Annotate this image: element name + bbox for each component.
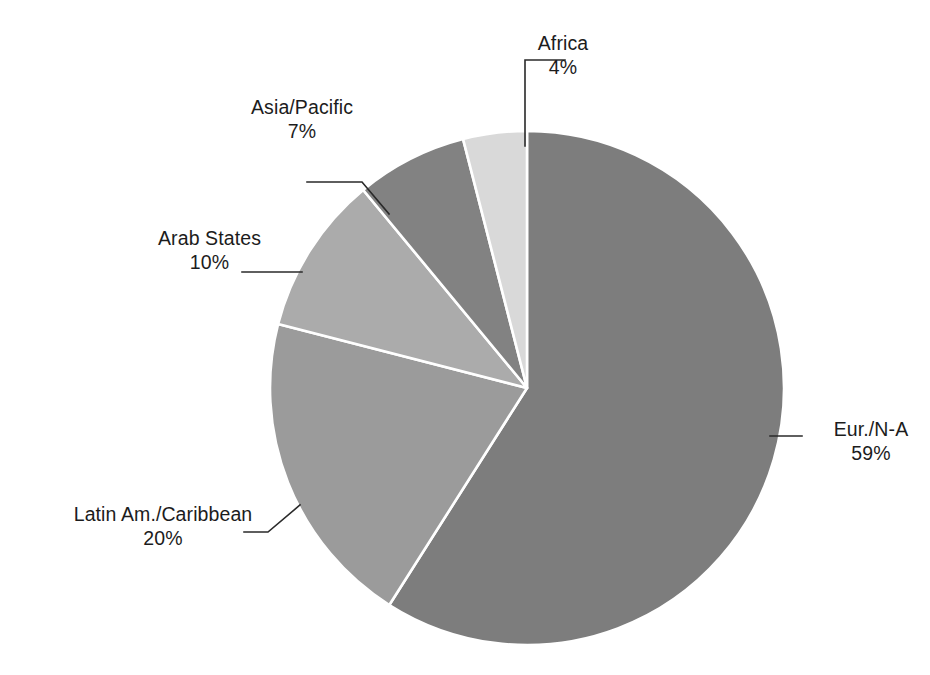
pie-label-asia-pacific-name: Asia/Pacific xyxy=(222,96,382,120)
pie-label-eur-na-percent: 59% xyxy=(806,442,930,466)
pie-label-latin-america-name: Latin Am./Caribbean xyxy=(44,503,282,527)
pie-label-arab-states-percent: 10% xyxy=(132,251,287,275)
pie-chart: Africa 4% Asia/Pacific 7% Arab States 10… xyxy=(0,0,930,675)
pie-chart-canvas xyxy=(0,0,930,675)
pie-label-arab-states-name: Arab States xyxy=(132,227,287,251)
pie-label-arab-states: Arab States 10% xyxy=(132,227,287,275)
pie-label-eur-na: Eur./N-A 59% xyxy=(806,418,930,466)
pie-label-africa-percent: 4% xyxy=(498,56,628,80)
pie-label-asia-pacific-percent: 7% xyxy=(222,120,382,144)
pie-label-latin-america: Latin Am./Caribbean 20% xyxy=(44,503,282,551)
pie-label-africa: Africa 4% xyxy=(498,32,628,80)
pie-slices xyxy=(270,131,784,645)
pie-label-eur-na-name: Eur./N-A xyxy=(806,418,930,442)
pie-label-asia-pacific: Asia/Pacific 7% xyxy=(222,96,382,144)
pie-label-africa-name: Africa xyxy=(498,32,628,56)
pie-label-latin-america-percent: 20% xyxy=(44,527,282,551)
